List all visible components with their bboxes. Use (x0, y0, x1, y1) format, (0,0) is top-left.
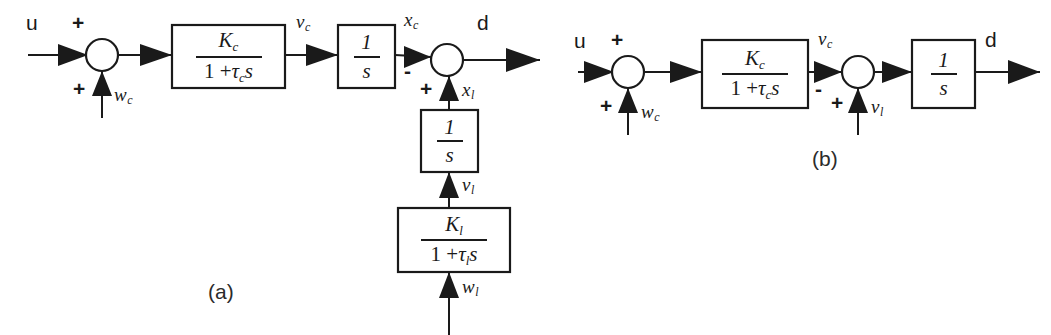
arrowhead-wc-input-b (618, 88, 638, 113)
integrator-expression-b: 1 s (912, 40, 975, 108)
carriage-integrator-denominator-a: s (362, 60, 370, 82)
signal-label-wc-b: wc (641, 102, 660, 123)
arrowhead-carriage-lag-input-a (140, 44, 172, 66)
sign-plus-sum2-bottom-b: + (831, 92, 843, 113)
load-integrator-expression-a: 1 s (421, 110, 478, 172)
load-integrator-denominator-a: s (445, 144, 453, 166)
arrowhead-vl-input-b (848, 88, 868, 113)
sign-plus-sum2-bottom-a: + (420, 78, 432, 99)
sign-minus-sum2-left-b: - (815, 78, 822, 99)
diagram-vector-layer (0, 0, 1051, 335)
summing-junction-2-b (842, 56, 874, 88)
load-lag-numerator-a: Kl (445, 213, 463, 237)
signal-label-vl-a: vl (462, 175, 474, 196)
summing-junction-2-a (431, 44, 463, 76)
signal-label-u-b: u (574, 30, 586, 51)
arrowhead-wl-input-a (439, 272, 459, 298)
arrowhead-load-integrator-input-a (439, 172, 459, 198)
sign-plus-sum1-bottom-a: + (73, 78, 85, 99)
carriage-lag-numerator-subscript-b: c (759, 56, 765, 71)
sign-plus-sum1-top-a: + (72, 12, 84, 33)
summing-junction-1-b (612, 56, 644, 88)
arrowhead-xl-input-a (439, 76, 459, 101)
load-integrator-fraction-bar-a (437, 140, 463, 142)
carriage-lag-numerator-subscript-a: c (233, 39, 239, 54)
signal-label-u-a: u (26, 12, 38, 33)
carriage-lag-expression-a: Kc 1 +τcs (172, 25, 285, 88)
signal-label-vc-b: vc (818, 29, 832, 50)
integrator-fraction-bar-b (931, 73, 957, 75)
signal-label-vc-a: vc (296, 12, 310, 33)
load-lag-fraction-bar-a (421, 239, 487, 241)
arrowhead-u-input-b (584, 61, 614, 83)
carriage-lag-expression-b: Kc 1 +τcs (702, 40, 808, 108)
load-lag-expression-a: Kl 1 +τls (398, 208, 510, 272)
integrator-denominator-b: s (939, 77, 947, 99)
sign-minus-sum2-left-a: - (404, 60, 411, 81)
sign-plus-sum1-top-b: + (611, 29, 623, 50)
signal-label-d-a: d (477, 12, 489, 33)
signal-label-d-b: d (985, 29, 997, 50)
carriage-lag-fraction-bar-a (196, 56, 262, 58)
summing-junction-1-a (86, 39, 118, 71)
signal-label-wl-a: wl (462, 277, 479, 298)
arrowhead-carriage-integrator-input-a (306, 44, 338, 66)
carriage-integrator-fraction-bar-a (354, 56, 380, 58)
block-diagram-figure: Kc 1 +τcs 1 s 1 s Kl 1 +τls u + + wc vc … (0, 0, 1051, 335)
arrowhead-u-input-a (58, 44, 88, 66)
signal-label-wc-a: wc (114, 85, 133, 106)
load-lag-denominator-a: 1 +τls (431, 243, 478, 267)
signal-label-xl-a: xl (462, 80, 474, 101)
panel-caption-a: (a) (208, 281, 234, 302)
signal-label-xc-a: xc (404, 10, 418, 31)
carriage-integrator-numerator-a: 1 (361, 31, 372, 53)
carriage-lag-denominator-a: 1 +τcs (204, 60, 253, 84)
carriage-integrator-expression-a: 1 s (338, 25, 395, 88)
arrowhead-wc-input-a (92, 71, 112, 96)
carriage-lag-fraction-bar-b (722, 73, 788, 75)
arrowhead-d-output-b (1008, 60, 1040, 84)
signal-label-vl-b: vl (871, 97, 883, 118)
sign-plus-sum1-bottom-b: + (600, 95, 612, 116)
carriage-lag-numerator-b: Kc (745, 47, 765, 71)
arrowhead-d-output-a (506, 48, 540, 72)
arrowhead-carriage-lag-input-b (670, 61, 702, 83)
integrator-numerator-b: 1 (938, 49, 949, 71)
carriage-lag-numerator-a: Kc (219, 29, 239, 53)
panel-caption-b: (b) (812, 148, 838, 169)
load-integrator-numerator-a: 1 (444, 116, 455, 138)
arrowhead-integrator-input-b (882, 61, 912, 83)
carriage-lag-denominator-b: 1 +τcs (730, 77, 779, 101)
load-lag-numerator-subscript-a: l (459, 222, 463, 237)
